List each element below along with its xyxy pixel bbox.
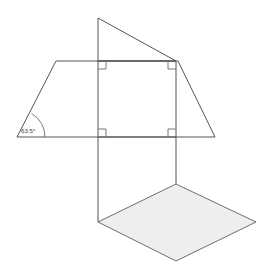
right-angle-top-left-icon	[98, 61, 106, 69]
right-angle-top-right-icon	[168, 61, 176, 69]
right-angle-bottom-right-icon	[168, 129, 176, 137]
angle-label: 63.5°	[21, 127, 36, 134]
geometry-figure: 63.5°	[0, 0, 266, 275]
right-angle-bottom-left-icon	[98, 129, 106, 137]
apex-triangle-face	[98, 18, 176, 61]
square-face	[98, 61, 176, 137]
shaded-parallelogram-base	[98, 184, 256, 261]
trapezoid-face	[17, 61, 215, 137]
